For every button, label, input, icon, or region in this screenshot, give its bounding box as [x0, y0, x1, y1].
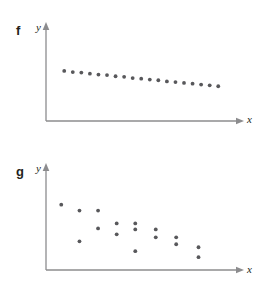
data-point	[96, 209, 100, 213]
data-point	[199, 83, 203, 87]
data-point	[131, 76, 135, 80]
y-axis-arrowhead-g	[43, 163, 50, 171]
data-point	[71, 70, 75, 74]
data-point	[174, 80, 178, 84]
data-point	[115, 232, 119, 236]
data-point	[133, 249, 137, 253]
data-point	[174, 242, 178, 246]
data-point	[139, 77, 143, 81]
data-point	[174, 235, 178, 239]
x-axis-arrowhead-f	[236, 118, 244, 125]
data-point	[154, 228, 158, 232]
data-point	[191, 82, 195, 86]
data-point	[78, 209, 82, 213]
data-point	[114, 74, 118, 78]
y-axis-arrowhead-f	[43, 22, 50, 30]
data-point	[156, 78, 160, 82]
data-points-g	[59, 203, 200, 259]
data-point	[88, 72, 92, 76]
data-point	[216, 84, 220, 88]
data-point	[165, 80, 169, 84]
data-point	[148, 78, 152, 82]
data-point	[115, 222, 119, 226]
data-point	[78, 239, 82, 243]
scatter-plot-f	[0, 0, 263, 141]
data-point	[133, 222, 137, 226]
data-point	[59, 203, 63, 207]
data-point	[122, 75, 126, 79]
data-point	[154, 235, 158, 239]
scatter-plot-g	[0, 141, 263, 282]
axes-g	[43, 163, 244, 273]
data-point	[96, 227, 100, 231]
data-point	[97, 73, 101, 77]
data-point	[62, 69, 66, 73]
data-point	[197, 255, 201, 259]
data-point	[79, 71, 83, 75]
x-axis-arrowhead-g	[236, 267, 244, 274]
data-point	[133, 228, 137, 232]
figure-f: f y x	[0, 0, 263, 141]
data-points-f	[62, 69, 220, 88]
data-point	[182, 81, 186, 85]
data-point	[208, 83, 212, 87]
data-point	[197, 245, 201, 249]
data-point	[105, 73, 109, 77]
figure-g: g y x	[0, 141, 263, 282]
